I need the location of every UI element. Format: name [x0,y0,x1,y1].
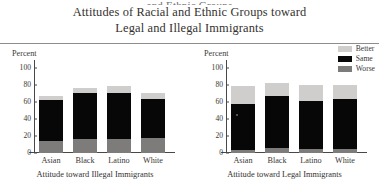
y-axis-title-left: Percent [12,49,37,58]
bar-group-right: AsianBlackLatinoWhite [226,60,362,153]
legend-label: Better [356,45,375,53]
y-tick-label: 100 [20,64,34,72]
image-artifact-speck [236,114,238,116]
bar-segment-better [333,85,357,99]
x-axis-label-black: Black [267,156,286,165]
figure-title: and Ethnic Groups Attitudes of Racial an… [0,0,379,36]
bar-segment-same [141,99,165,138]
bar-segment-worse [141,138,165,153]
bar-segment-same [39,100,63,141]
y-tick-label: 20 [215,132,226,140]
title-line-2: Legal and Illegal Immigrants [0,21,379,37]
bar-segment-same [73,93,97,139]
figure-body: Percent 020406080100 AsianBlackLatinoWhi… [0,44,379,186]
x-axis-label-white: White [143,156,163,165]
bar-segment-same [107,93,131,139]
bar-segment-worse [231,150,255,153]
bar-segment-same [333,99,357,149]
y-axis-title-right: Percent [204,49,229,58]
y-tick-label: 100 [212,64,226,72]
caption-right: Attitude toward Legal Immigrants [190,170,379,180]
bar-segment-better [141,93,165,99]
title-line-1: Attitudes of Racial and Ethnic Groups to… [0,5,379,21]
chart-panel-legal: Percent BetterSameWorse 020406080100 Asi… [190,44,379,186]
bar-group-left: AsianBlackLatinoWhite [34,60,170,153]
x-axis-label-latino: Latino [108,156,129,165]
y-tick-label: 60 [23,98,34,106]
plot-area-right: 020406080100 AsianBlackLatinoWhite [226,60,362,153]
y-tick-label: 0 [219,149,226,157]
chart-panel-illegal: Percent 020406080100 AsianBlackLatinoWhi… [0,44,190,186]
bar-segment-better [265,83,289,97]
y-tick-label: 20 [23,132,34,140]
bar-black: Black [73,88,97,153]
bar-black: Black [265,83,289,153]
bar-segment-worse [39,141,63,153]
legend-swatch-better-icon [338,46,352,52]
legend-item-better: Better [338,45,375,53]
bar-segment-worse [265,148,289,153]
y-tick-label: 40 [23,115,34,123]
bar-segment-worse [107,139,131,153]
bar-white: White [141,93,165,153]
bar-segment-same [299,101,323,148]
plot-area-left: 020406080100 AsianBlackLatinoWhite [34,60,170,153]
bar-white: White [333,85,357,153]
bar-segment-better [299,85,323,102]
y-tick-label: 60 [215,98,226,106]
bar-segment-better [73,88,97,93]
bar-latino: Latino [299,85,323,153]
y-tick-label: 80 [23,81,34,89]
x-axis-label-asian: Asian [41,156,60,165]
y-tick-label: 40 [215,115,226,123]
x-axis-label-latino: Latino [300,156,321,165]
bar-segment-better [39,96,63,100]
bar-segment-worse [333,149,357,153]
bar-segment-worse [299,149,323,153]
bar-segment-better [231,86,255,104]
x-axis-label-black: Black [75,156,94,165]
bar-segment-same [231,104,255,150]
bar-segment-better [107,86,131,93]
bar-segment-same [265,96,289,148]
y-tick-label: 0 [27,149,34,157]
bar-asian: Asian [231,86,255,153]
bar-segment-worse [73,139,97,153]
bar-asian: Asian [39,96,63,153]
caption-left: Attitude toward Illegal Immigrants [0,170,190,180]
y-tick-label: 80 [215,81,226,89]
x-axis-label-white: White [335,156,355,165]
bar-latino: Latino [107,86,131,153]
x-axis-label-asian: Asian [233,156,252,165]
